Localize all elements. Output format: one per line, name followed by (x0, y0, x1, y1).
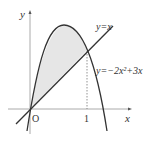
line-label: y=x (95, 21, 112, 32)
y-axis-arrow (29, 10, 32, 14)
y-axis-label: y (19, 8, 25, 20)
parabola-label: y=−2x²+3x (95, 65, 143, 76)
x-axis-label: x (124, 112, 130, 124)
tick-label-1: 1 (84, 113, 89, 124)
origin-label: O (32, 113, 39, 124)
x-axis-arrow (128, 108, 132, 111)
function-graph: y x O 1 y=x y=−2x²+3x (0, 0, 163, 148)
